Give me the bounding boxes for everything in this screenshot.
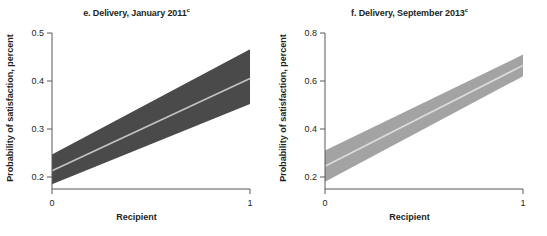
panel-e-xtick-label-1: 1 xyxy=(247,198,252,208)
panel-e-ytick-label-0: 0.2 xyxy=(31,172,44,182)
panel-f-estimate-line xyxy=(325,65,523,166)
panel-f-confidence-band xyxy=(325,55,523,182)
figure-container: e. Delivery, January 2011c Probability o… xyxy=(0,0,547,236)
panel-e-ytick-label-2: 0.4 xyxy=(31,76,44,86)
panel-e-confidence-band xyxy=(52,49,250,184)
chart-panel-e: e. Delivery, January 2011c Probability o… xyxy=(0,0,273,236)
panel-e-x-axis-label: Recipient xyxy=(0,212,273,222)
panel-e-estimate-line xyxy=(52,79,250,171)
panel-e-xtick-label-0: 0 xyxy=(49,198,54,208)
panel-e-plot: 0.2 0.3 0.4 0.5 0 1 xyxy=(0,0,273,236)
panel-f-ytick-label-0: 0.2 xyxy=(304,172,317,182)
panel-f-xtick-label-1: 1 xyxy=(520,198,525,208)
panel-f-ytick-label-3: 0.8 xyxy=(304,28,317,38)
panel-f-x-axis-label: Recipient xyxy=(273,212,546,222)
panel-e-ytick-label-1: 0.3 xyxy=(31,124,44,134)
panel-f-ytick-label-1: 0.4 xyxy=(304,124,317,134)
panel-f-ytick-label-2: 0.6 xyxy=(304,76,317,86)
panel-f-plot: 0.2 0.4 0.6 0.8 0 1 xyxy=(273,0,546,236)
panel-f-xtick-label-0: 0 xyxy=(322,198,327,208)
chart-panel-f: f. Delivery, September 2013c Probability… xyxy=(273,0,546,236)
panel-e-ytick-label-3: 0.5 xyxy=(31,28,44,38)
